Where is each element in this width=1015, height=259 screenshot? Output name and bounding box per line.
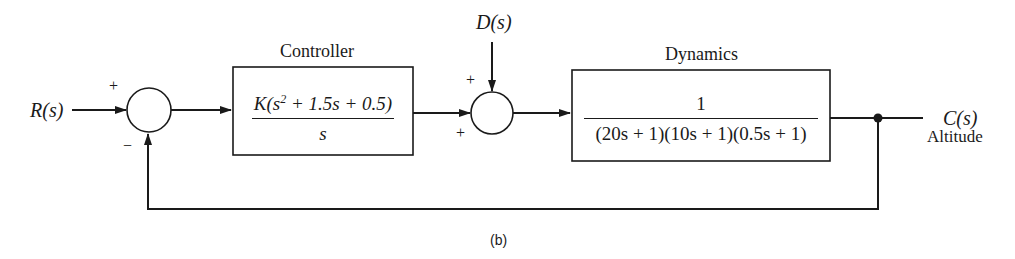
sum1-top-sign: + <box>109 78 118 94</box>
sum1-bottom-sign: − <box>123 138 132 154</box>
dynamics-title: Dynamics <box>665 45 738 63</box>
sum2-top-sign: + <box>466 72 475 88</box>
dynamics-transfer-function: 1 (20s + 1)(10s + 1)(0.5s + 1) <box>584 93 818 145</box>
output-label: C(s) <box>943 108 977 128</box>
pickoff-point <box>874 114 883 123</box>
controller-numerator: K(s2 + 1.5s + 0.5) <box>252 92 394 119</box>
dynamics-denominator: (20s + 1)(10s + 1)(0.5s + 1) <box>595 119 806 145</box>
figure-caption: (b) <box>490 233 507 247</box>
disturbance-label: D(s) <box>476 12 512 32</box>
dynamics-numerator: 1 <box>584 93 818 119</box>
input-label: R(s) <box>30 100 63 120</box>
controller-transfer-function: K(s2 + 1.5s + 0.5) s <box>244 92 402 145</box>
summing-junction-1 <box>127 88 171 132</box>
summing-junction-2 <box>471 92 513 134</box>
diagram-wiring <box>0 0 1015 259</box>
controller-title: Controller <box>280 42 354 60</box>
controller-denominator: s <box>319 119 326 145</box>
output-sublabel: Altitude <box>927 128 983 145</box>
sum2-bottom-sign: + <box>456 125 465 141</box>
